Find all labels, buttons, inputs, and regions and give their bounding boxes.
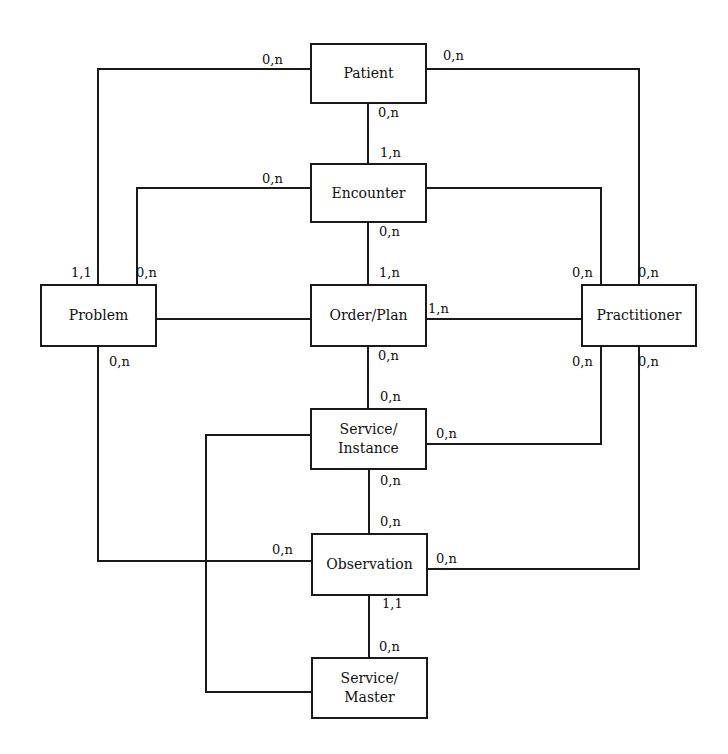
connector-patient-encounter [367,103,369,163]
connector-outer-left-v [97,68,99,284]
connector-order-service-instance [367,346,369,408]
connector-observation-practitioner-h [427,568,640,570]
cardinality-encounter-top: 1,n [380,146,401,160]
cardinality-observation-left: 0,n [272,543,293,557]
connector-encounter-problem-h [136,187,311,189]
entity-service-instance: Service/ Instance [310,408,427,470]
cardinality-encounter-bottom: 0,n [379,225,400,239]
cardinality-practitioner-top-right: 0,n [638,266,659,280]
cardinality-practitioner-bottom-left: 0,n [572,355,593,369]
cardinality-order-bottom: 0,n [378,349,399,363]
er-diagram: Patient Encounter Problem Order/Plan Pra… [0,0,728,754]
connector-observation-service-master [368,595,370,657]
entity-encounter: Encounter [310,163,427,223]
connector-service-instance-practitioner-v [600,346,602,445]
entity-practitioner: Practitioner [581,284,697,347]
cardinality-observation-bottom: 1,1 [382,597,403,611]
cardinality-order-top: 1,n [379,266,400,280]
entity-order-plan: Order/Plan [310,284,427,347]
connector-service-instance-practitioner-h [426,443,602,445]
connector-practitioner-observation-v [638,346,640,569]
entity-label: Service/ Instance [338,420,399,458]
cardinality-observation-top: 0,n [380,515,401,529]
entity-label: Order/Plan [329,306,407,325]
cardinality-practitioner-top-left: 0,n [572,266,593,280]
cardinality-patient-right: 0,n [443,49,464,63]
connector-outer-right-v [638,68,640,284]
cardinality-patient-bottom: 0,n [378,106,399,120]
connector-problem-order [156,318,310,320]
cardinality-patient-left: 0,n [262,53,283,67]
cardinality-service-master-top: 0,n [379,640,400,654]
cardinality-problem-top-left: 1,1 [71,266,92,280]
cardinality-practitioner-bottom-right: 0,n [638,355,659,369]
cardinality-observation-right: 0,n [436,552,457,566]
cardinality-service-instance-top: 0,n [380,390,401,404]
connector-service-instance-master-top-h [205,434,311,436]
entity-label: Encounter [331,184,405,203]
entity-service-master: Service/ Master [311,657,428,719]
cardinality-encounter-left: 0,n [262,172,283,186]
cardinality-problem-top-right: 0,n [136,266,157,280]
connector-encounter-practitioner-v [600,187,602,284]
entity-observation: Observation [311,533,428,596]
connector-service-instance-master-v [205,434,207,693]
cardinality-order-right: 1,n [428,302,449,316]
entity-label: Practitioner [597,306,682,325]
connector-service-instance-master-bottom-h [205,691,311,693]
entity-label: Patient [343,64,393,83]
cardinality-service-instance-bottom: 0,n [380,474,401,488]
connector-problem-observation-v [97,346,99,561]
connector-order-practitioner [426,318,581,320]
connector-encounter-practitioner-h [426,187,602,189]
entity-label: Service/ Master [341,669,399,707]
entity-problem: Problem [40,284,157,347]
entity-patient: Patient [310,43,427,104]
entity-label: Problem [69,306,129,325]
cardinality-problem-bottom: 0,n [109,355,130,369]
cardinality-service-instance-right: 0,n [436,427,457,441]
connector-service-instance-observation [368,469,370,533]
entity-label: Observation [326,555,412,574]
connector-patient-practitioner-h [426,68,639,70]
connector-encounter-order [367,222,369,284]
connector-problem-observation-h [97,560,311,562]
connector-patient-problem-h [97,68,311,70]
